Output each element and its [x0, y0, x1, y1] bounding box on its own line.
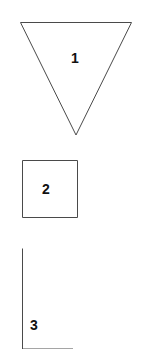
shape-label-1: 1: [71, 51, 79, 65]
geometric-shapes-figure: 1 2 3: [0, 0, 141, 349]
shape-label-2: 2: [42, 182, 50, 196]
shape-label-3: 3: [30, 318, 38, 332]
